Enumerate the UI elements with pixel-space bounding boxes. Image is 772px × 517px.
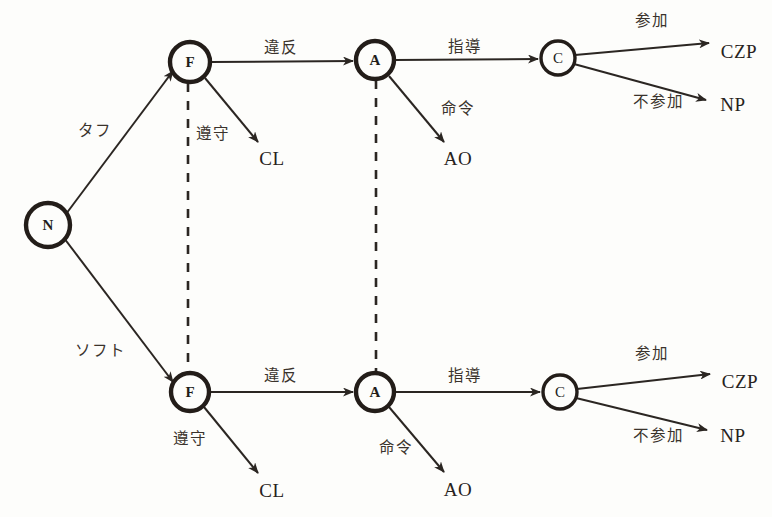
information-set-layer xyxy=(188,80,376,372)
edge-a-to-ao-top xyxy=(389,76,444,142)
edge-c-to-czp-bot xyxy=(577,374,710,389)
edge-c-to-np-bot xyxy=(576,398,707,430)
edge-label-order-top: 命令 xyxy=(441,102,475,118)
game-tree-diagram: NFACFAC タフソフト違反遵守指導命令参加不参加違反遵守指導命令参加不参加 … xyxy=(0,0,772,517)
edge-label-order-bot: 命令 xyxy=(379,441,413,457)
edge-label-guidance-bot: 指導 xyxy=(448,369,482,385)
edge-label-chance-tough: タフ xyxy=(78,124,112,140)
terminal-NP_top: NP xyxy=(720,95,745,114)
node-label-F_bot: F xyxy=(185,385,194,400)
edge-label-compliance-bot: 遵守 xyxy=(173,432,207,448)
node-label-F_top: F xyxy=(185,55,194,70)
terminal-CL_bot: CL xyxy=(259,481,284,500)
edge-label-compliance-top: 遵守 xyxy=(196,127,230,143)
edge-label-participate-bot: 参加 xyxy=(635,347,669,363)
edge-label-violation-top: 違反 xyxy=(264,41,298,57)
terminal-CZP_top: CZP xyxy=(721,42,757,61)
edge-label-chance-soft: ソフト xyxy=(75,344,126,360)
node-label-A_bot: A xyxy=(370,385,381,400)
edge-f-to-cl-bot xyxy=(204,407,258,473)
terminal-AO_bot: AO xyxy=(444,480,472,499)
terminal-CZP_bot: CZP xyxy=(722,372,758,391)
node-label-C_bot: C xyxy=(555,385,565,400)
edge-label-guidance-top: 指導 xyxy=(448,40,482,56)
edge-n-to-f-bot xyxy=(64,238,173,382)
node-label-A_top: A xyxy=(370,53,381,68)
edge-label-nonparticipate-bot: 不参加 xyxy=(633,429,684,445)
edge-a-to-c-top xyxy=(394,59,538,60)
edge-label-participate-top: 参加 xyxy=(635,14,669,30)
node-label-C_top: C xyxy=(553,51,563,66)
edge-c-to-czp-top xyxy=(575,43,709,55)
edge-f-to-a-top xyxy=(210,61,353,62)
edge-n-to-f-top xyxy=(66,71,173,214)
terminal-CL_top: CL xyxy=(259,149,284,168)
terminal-AO_top: AO xyxy=(444,149,472,168)
terminal-NP_bot: NP xyxy=(720,426,745,445)
node-label-N: N xyxy=(43,218,54,233)
edge-label-violation-bot: 違反 xyxy=(264,369,298,385)
edge-label-nonparticipate-top: 不参加 xyxy=(633,95,684,111)
